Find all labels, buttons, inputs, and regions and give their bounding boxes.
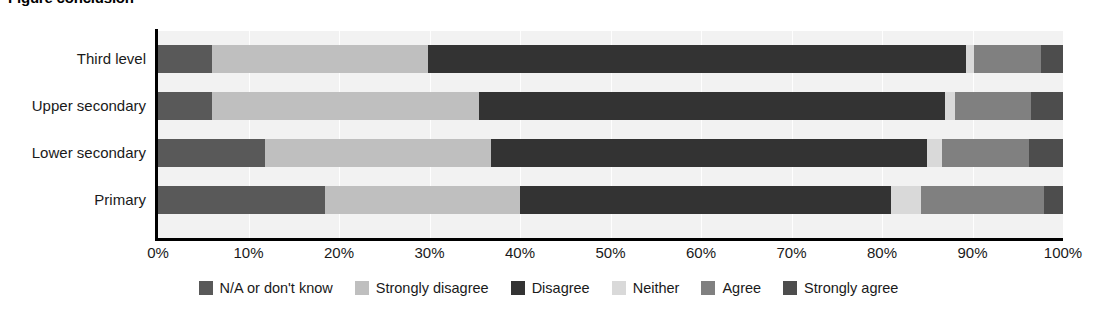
x-axis-tick-label: 80% (852, 244, 912, 261)
stacked-bar (158, 139, 1063, 167)
bar-segment[interactable] (491, 139, 927, 167)
y-axis-label: Primary (0, 191, 158, 208)
legend-swatch-icon (701, 281, 715, 295)
bar-segment[interactable] (966, 45, 974, 73)
legend-item[interactable]: Strongly disagree (355, 280, 489, 296)
bar-segment[interactable] (955, 92, 1031, 120)
y-axis-label: Lower secondary (0, 144, 158, 161)
bar-segment[interactable] (927, 139, 941, 167)
legend-swatch-icon (355, 281, 369, 295)
legend-label: Disagree (532, 280, 590, 296)
bar-segment[interactable] (158, 139, 265, 167)
bar-segment[interactable] (921, 186, 1044, 214)
bar-segment[interactable] (520, 186, 891, 214)
bar-segment[interactable] (212, 92, 479, 120)
legend-label: Agree (722, 280, 761, 296)
chart-legend: N/A or don't knowStrongly disagreeDisagr… (0, 280, 1097, 296)
bar-segment[interactable] (974, 45, 1041, 73)
legend-swatch-icon (511, 281, 525, 295)
x-axis-tick-label: 20% (309, 244, 369, 261)
legend-label: Strongly disagree (376, 280, 489, 296)
x-axis-line (155, 238, 1063, 241)
bar-segment[interactable] (325, 186, 520, 214)
bar-segment[interactable] (1029, 139, 1063, 167)
bar-segment[interactable] (212, 45, 427, 73)
x-axis-tick-label: 60% (671, 244, 731, 261)
bar-segment[interactable] (158, 45, 212, 73)
legend-item[interactable]: Neither (612, 280, 680, 296)
x-axis-tick-label: 0% (128, 244, 188, 261)
x-axis-tick-label: 100% (1033, 244, 1093, 261)
legend-label: Strongly agree (804, 280, 898, 296)
stacked-bar (158, 186, 1063, 214)
legend-swatch-icon (199, 281, 213, 295)
bar-row (158, 92, 1063, 120)
bar-segment[interactable] (1041, 45, 1063, 73)
bar-row (158, 45, 1063, 73)
legend-label: N/A or don't know (220, 280, 333, 296)
x-axis-tick-label: 30% (400, 244, 460, 261)
legend-item[interactable]: Disagree (511, 280, 590, 296)
bar-segment[interactable] (942, 139, 1029, 167)
y-axis-label: Third level (0, 50, 158, 67)
bar-segment[interactable] (158, 186, 325, 214)
legend-label: Neither (633, 280, 680, 296)
y-axis-label: Upper secondary (0, 97, 158, 114)
stacked-bar (158, 92, 1063, 120)
legend-swatch-icon (783, 281, 797, 295)
bar-row (158, 186, 1063, 214)
chart-title: Figure conclusion (8, 0, 134, 6)
bar-segment[interactable] (265, 139, 491, 167)
bar-segment[interactable] (158, 92, 212, 120)
bar-segment[interactable] (1044, 186, 1063, 214)
x-axis-tick-label: 40% (490, 244, 550, 261)
x-axis-tick-label: 90% (943, 244, 1003, 261)
legend-swatch-icon (612, 281, 626, 295)
bar-segment[interactable] (479, 92, 945, 120)
bar-segment[interactable] (1031, 92, 1063, 120)
bar-row (158, 139, 1063, 167)
bar-segment[interactable] (428, 45, 966, 73)
x-axis-tick-label: 50% (581, 244, 641, 261)
legend-item[interactable]: N/A or don't know (199, 280, 333, 296)
bar-segment[interactable] (945, 92, 955, 120)
legend-item[interactable]: Strongly agree (783, 280, 898, 296)
x-axis-tick-label: 70% (762, 244, 822, 261)
stacked-bar (158, 45, 1063, 73)
legend-item[interactable]: Agree (701, 280, 761, 296)
x-axis-tick-label: 10% (219, 244, 279, 261)
gridline (1063, 31, 1064, 238)
bar-segment[interactable] (891, 186, 921, 214)
